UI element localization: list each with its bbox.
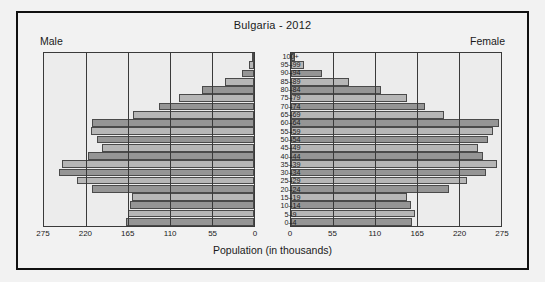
bar-row [44, 177, 254, 185]
age-group-label: 10–14 [255, 202, 326, 210]
bar-row [44, 193, 254, 201]
age-group-label: 75–79 [255, 94, 326, 102]
x-tick-label-110: 110 [164, 229, 177, 238]
bar-row [44, 94, 254, 102]
age-group-label: 45–49 [255, 144, 326, 152]
x-axis-label: Population (in thousands) [18, 244, 527, 256]
age-group-axis: 100+95–9990–9485–8980–8475–7970–7465–696… [255, 52, 326, 227]
bar-male-85-89 [225, 78, 254, 86]
bar-row [44, 78, 254, 86]
age-group-label: 25–29 [255, 177, 326, 185]
x-tick-label-110: 110 [368, 229, 381, 238]
axis-side-label-female: Female [470, 35, 505, 47]
x-axis-ticks-female: 055110165220275 [290, 229, 502, 243]
x-tick-label-275: 275 [36, 229, 49, 238]
bar-male-20-24 [92, 185, 254, 193]
gridline-220 [459, 53, 460, 226]
bar-male-0-4 [126, 218, 254, 226]
bar-group-male [44, 53, 254, 226]
gridline-165 [128, 53, 129, 226]
bar-male-70-74 [159, 103, 254, 111]
bar-male-100plus [252, 53, 254, 61]
gridline-55 [333, 53, 334, 226]
x-tick-label-220: 220 [453, 229, 466, 238]
bar-row [44, 152, 254, 160]
bar-row [44, 160, 254, 168]
x-tick-label-275: 275 [495, 229, 508, 238]
bar-male-15-19 [132, 193, 254, 201]
bar-row [44, 53, 254, 61]
bar-row [44, 135, 254, 143]
x-axis-ticks-male: 275220165110550 [43, 229, 255, 243]
axis-side-label-male: Male [40, 35, 63, 47]
bar-row [44, 144, 254, 152]
bar-row [44, 218, 254, 226]
bar-male-30-34 [59, 169, 254, 177]
bar-row [44, 69, 254, 77]
bar-male-10-14 [130, 201, 254, 209]
bar-male-5-9 [128, 210, 254, 218]
bar-row [44, 209, 254, 217]
gridline-55 [212, 53, 213, 226]
gridline-110 [170, 53, 171, 226]
bar-row [44, 127, 254, 135]
chart-frame: Bulgaria - 2012 Male Female 100+95–9990–… [16, 11, 529, 270]
bar-male-45-49 [102, 144, 254, 152]
bar-male-75-79 [179, 94, 254, 102]
bar-male-55-59 [91, 127, 254, 135]
plot-area-male [43, 52, 255, 227]
bar-row [44, 102, 254, 110]
bar-row [44, 201, 254, 209]
bar-row [44, 61, 254, 69]
x-tick-label-165: 165 [411, 229, 424, 238]
bar-row [44, 185, 254, 193]
bar-male-90-94 [242, 70, 254, 78]
gridline-220 [86, 53, 87, 226]
figure-canvas: Bulgaria - 2012 Male Female 100+95–9990–… [0, 0, 545, 282]
x-tick-label-0: 0 [288, 229, 292, 238]
bar-male-65-69 [133, 111, 254, 119]
age-group-label: 60–64 [255, 119, 326, 127]
bar-row [44, 111, 254, 119]
bar-row [44, 86, 254, 94]
bar-row [44, 119, 254, 127]
bar-male-35-39 [62, 160, 254, 168]
x-tick-label-0: 0 [253, 229, 257, 238]
bar-male-80-84 [202, 86, 254, 94]
gridline-110 [375, 53, 376, 226]
bar-male-25-29 [77, 177, 254, 185]
x-tick-label-55: 55 [328, 229, 337, 238]
age-group-label: 0–4 [255, 219, 326, 227]
x-tick-label-55: 55 [208, 229, 217, 238]
bar-male-95-99 [249, 61, 254, 69]
gridline-165 [417, 53, 418, 226]
chart-title: Bulgaria - 2012 [18, 19, 527, 31]
age-group-label: 90–94 [255, 69, 326, 77]
bar-male-50-54 [97, 136, 254, 144]
bar-row [44, 168, 254, 176]
bar-male-60-64 [92, 119, 254, 127]
x-tick-label-165: 165 [121, 229, 134, 238]
x-tick-label-220: 220 [79, 229, 92, 238]
